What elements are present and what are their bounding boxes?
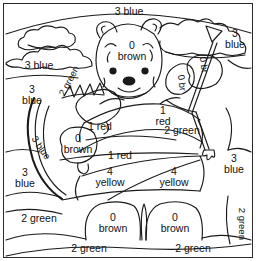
page-border-frame xyxy=(3,3,253,258)
coloring-page-canvas: 3 blue 3 blue 3 blue 3 blue 3 blue 3 blu… xyxy=(0,0,256,261)
